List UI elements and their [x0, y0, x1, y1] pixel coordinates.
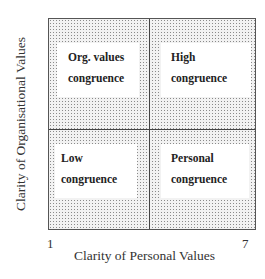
quadrant-org-values-congruence: Org. values congruence — [57, 43, 139, 97]
y-axis-label: Clarity of Organisational Values — [13, 37, 29, 211]
quadrant-low-congruence: Low congruence — [55, 144, 137, 198]
quadrant-label-line1: High — [171, 47, 251, 68]
x-axis-min-tick: 1 — [47, 236, 54, 252]
horizontal-divider — [49, 129, 255, 130]
quadrant-label-line1: Org. values — [68, 47, 139, 68]
quadrant-label-line2: congruence — [171, 68, 251, 89]
quadrant-label-line2: congruence — [171, 169, 249, 190]
quadrant-label-line2: congruence — [61, 169, 137, 190]
matrix-frame: Org. values congruence High congruence L… — [48, 18, 256, 230]
x-axis-label: Clarity of Personal Values — [74, 248, 215, 264]
quadrant-label-line1: Low — [61, 148, 137, 169]
vertical-divider — [149, 19, 150, 229]
quadrant-label-line1: Personal — [171, 148, 249, 169]
quadrant-high-congruence: High congruence — [161, 43, 251, 97]
quadrant-personal-congruence: Personal congruence — [161, 144, 249, 198]
x-axis-max-tick: 7 — [242, 236, 249, 252]
quadrant-label-line2: congruence — [68, 68, 139, 89]
